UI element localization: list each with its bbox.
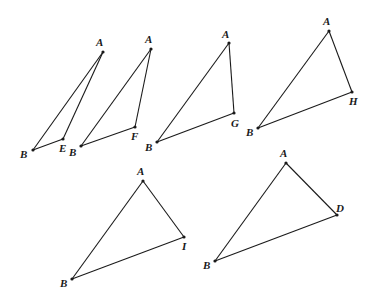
vertex-d-label: D <box>335 202 344 214</box>
edge-ab <box>33 52 103 150</box>
vertex-a-label: A <box>136 165 144 177</box>
edge-ab <box>157 43 229 142</box>
triangle-abh: ABH <box>245 15 358 138</box>
vertex-b-label: B <box>19 148 27 160</box>
vertex-f-label: F <box>130 130 139 142</box>
vertex-a-point <box>284 161 287 164</box>
edge-ga <box>229 43 234 113</box>
triangle-abe: ABE <box>19 36 105 160</box>
vertex-a-label: A <box>95 36 103 48</box>
edge-bf <box>81 127 135 146</box>
vertex-e-point <box>61 137 64 140</box>
edge-bg <box>157 113 234 142</box>
edge-bd <box>215 215 337 261</box>
edge-ia <box>143 181 184 237</box>
vertex-a-label: A <box>144 33 152 45</box>
edge-bi <box>72 237 184 279</box>
vertex-b-label: B <box>245 126 253 138</box>
vertex-i-label: I <box>181 240 187 252</box>
vertex-a-point <box>327 29 330 32</box>
vertex-a-point <box>101 50 104 53</box>
vertex-a-label: A <box>322 15 330 27</box>
vertex-b-point <box>70 277 73 280</box>
vertex-b-label: B <box>68 146 76 158</box>
edge-ab <box>72 181 143 279</box>
vertex-g-label: G <box>231 117 239 129</box>
vertex-e-label: E <box>58 142 66 154</box>
vertex-a-point <box>141 179 144 182</box>
edge-ab <box>215 163 286 261</box>
vertex-b-point <box>155 140 158 143</box>
triangle-diagram: ABEABFABGABHABIABD <box>0 0 381 303</box>
vertex-b-point <box>79 144 82 147</box>
vertex-i-point <box>182 235 185 238</box>
triangle-abf: ABF <box>68 33 153 158</box>
vertex-a-point <box>227 41 230 44</box>
vertex-a-label: A <box>279 147 287 159</box>
vertex-b-label: B <box>144 141 152 153</box>
vertex-b-label: B <box>202 259 210 271</box>
vertex-b-point <box>213 259 216 262</box>
vertex-a-point <box>149 47 152 50</box>
edge-da <box>286 163 337 215</box>
vertex-b-point <box>256 126 259 129</box>
vertex-a-label: A <box>221 28 229 40</box>
vertex-b-label: B <box>59 277 67 289</box>
edge-ha <box>329 31 352 92</box>
vertex-f-point <box>133 125 136 128</box>
triangle-abi: ABI <box>59 165 187 289</box>
triangle-abg: ABG <box>144 28 239 153</box>
vertex-h-label: H <box>348 95 358 107</box>
vertex-b-point <box>31 148 34 151</box>
vertex-h-point <box>350 90 353 93</box>
edge-ea <box>63 52 103 139</box>
edge-ab <box>258 31 329 128</box>
triangle-abd: ABD <box>202 147 344 271</box>
edge-bh <box>258 92 352 128</box>
vertex-g-point <box>232 111 235 114</box>
